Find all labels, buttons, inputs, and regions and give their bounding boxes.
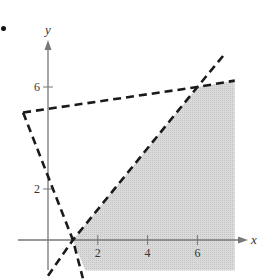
y-axis-arrow-icon	[45, 40, 52, 50]
x-tick-label: 6	[194, 246, 200, 260]
x-tick-label: 2	[95, 246, 101, 260]
dashed-boundary-line	[23, 113, 83, 279]
y-tick-label: 2	[34, 182, 40, 196]
figure: x y 246 26	[0, 0, 269, 280]
x-tick-label: 4	[145, 246, 151, 260]
y-tick-label: 6	[34, 80, 40, 94]
x-axis-arrow-icon	[238, 237, 248, 244]
y-axis-label: y	[43, 22, 51, 37]
bullet-marker	[1, 26, 6, 31]
shaded-region	[73, 81, 235, 271]
inequality-graph: x y 246 26	[0, 0, 269, 280]
x-axis-label: x	[250, 232, 257, 247]
